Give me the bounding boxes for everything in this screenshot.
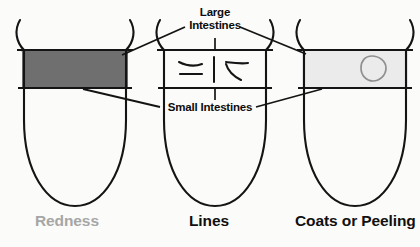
- large-intestines-line2: Intestines: [175, 19, 255, 32]
- tongue-diagnosis-figure: Large Intestines Small Intestines Rednes…: [0, 0, 420, 247]
- caption-coats-or-peeling: Coats or Peeling: [295, 212, 416, 230]
- redness-band-fill: [16, 50, 134, 88]
- leader-small-left: [83, 89, 160, 107]
- crack-right-lower: [226, 64, 241, 80]
- coats-band-fill: [296, 50, 414, 88]
- annotation-small-intestines: Small Intestines: [165, 101, 255, 113]
- tongue-lines-group: [157, 20, 274, 206]
- redness-tongue-outline: [17, 20, 134, 206]
- coats-tongue-outline: [297, 20, 414, 206]
- caption-redness: Redness: [35, 212, 99, 230]
- tongue-coats-group: [296, 20, 414, 206]
- tongue-redness-group: [16, 20, 134, 206]
- diagram-canvas: [0, 0, 420, 247]
- crack-left-upper: [179, 62, 202, 66]
- large-intestines-line1: Large: [175, 6, 255, 19]
- crack-right-upper: [226, 62, 248, 63]
- caption-lines: Lines: [189, 212, 229, 230]
- annotation-large-intestines: Large Intestines: [175, 6, 255, 31]
